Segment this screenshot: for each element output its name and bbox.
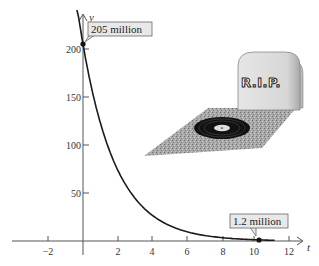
svg-text:2: 2 bbox=[116, 246, 121, 257]
svg-text:200: 200 bbox=[66, 44, 81, 55]
svg-text:150: 150 bbox=[66, 92, 81, 103]
exponential-decay-chart: R.I.P. −2 2 4 6 8 10 12 bbox=[0, 0, 319, 266]
svg-text:1.2 million: 1.2 million bbox=[233, 215, 282, 227]
svg-text:10: 10 bbox=[249, 246, 259, 257]
svg-text:205 million: 205 million bbox=[91, 23, 143, 35]
x-axis-label: t bbox=[307, 241, 311, 253]
end-point bbox=[256, 237, 261, 242]
svg-text:50: 50 bbox=[71, 188, 81, 199]
x-tick-labels: −2 2 4 6 8 10 12 bbox=[43, 246, 294, 257]
y-tick-labels: 50 100 150 200 bbox=[66, 44, 81, 199]
x-axis: −2 2 4 6 8 10 12 t bbox=[12, 236, 311, 257]
svg-text:100: 100 bbox=[66, 140, 81, 151]
start-point bbox=[80, 41, 85, 46]
y-axis-label: y bbox=[88, 11, 94, 23]
svg-text:6: 6 bbox=[185, 246, 190, 257]
svg-text:12: 12 bbox=[284, 246, 294, 257]
svg-text:−2: −2 bbox=[43, 246, 54, 257]
tombstone-text: R.I.P. bbox=[241, 75, 281, 90]
y-axis: 50 100 150 200 y bbox=[66, 11, 94, 255]
tombstone-illustration: R.I.P. bbox=[144, 52, 303, 156]
end-callout: 1.2 million bbox=[230, 214, 288, 236]
start-callout: 205 million bbox=[85, 22, 152, 42]
svg-text:4: 4 bbox=[150, 246, 155, 257]
svg-text:8: 8 bbox=[221, 246, 226, 257]
vinyl-record-icon bbox=[194, 117, 250, 139]
